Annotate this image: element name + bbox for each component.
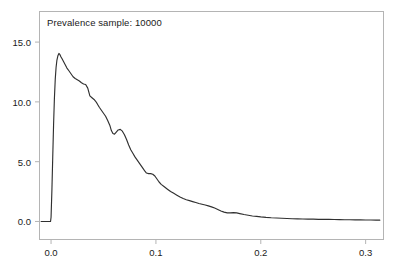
x-tick-label: 0.3	[359, 247, 372, 258]
y-tick-label: 0.0	[0, 216, 31, 227]
prevalence-density-line	[41, 53, 380, 221]
x-tick-label: 0.0	[44, 247, 57, 258]
y-tick-label: 5.0	[0, 156, 31, 167]
chart-svg-layer	[0, 0, 398, 272]
x-tick-label: 0.2	[254, 247, 267, 258]
y-tick-label: 10.0	[0, 96, 31, 107]
chart-root: Prevalence sample: 10000 0.05.010.015.0 …	[0, 0, 398, 272]
y-tick-label: 15.0	[0, 37, 31, 48]
x-tick-label: 0.1	[149, 247, 162, 258]
tick-marks	[35, 42, 366, 244]
